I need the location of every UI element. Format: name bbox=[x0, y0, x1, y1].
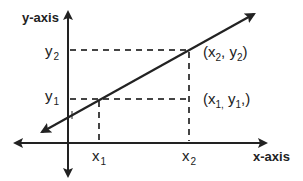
coordinate-diagram: y-axis x-axis y2 y1 x1 x2 (x2, y2) (x1, … bbox=[0, 0, 303, 181]
y1-tick-label: y1 bbox=[45, 87, 60, 107]
point-1-label: (x1, y1,) bbox=[203, 90, 250, 110]
graph-line bbox=[42, 14, 254, 132]
point-2-label: (x2, y2) bbox=[203, 43, 247, 63]
x-axis-label: x-axis bbox=[253, 149, 290, 164]
y-axis-label: y-axis bbox=[22, 10, 59, 25]
x1-tick-label: x1 bbox=[92, 147, 107, 167]
x2-tick-label: x2 bbox=[182, 147, 197, 167]
y2-tick-label: y2 bbox=[45, 42, 60, 62]
dashed-guides bbox=[70, 50, 189, 141]
